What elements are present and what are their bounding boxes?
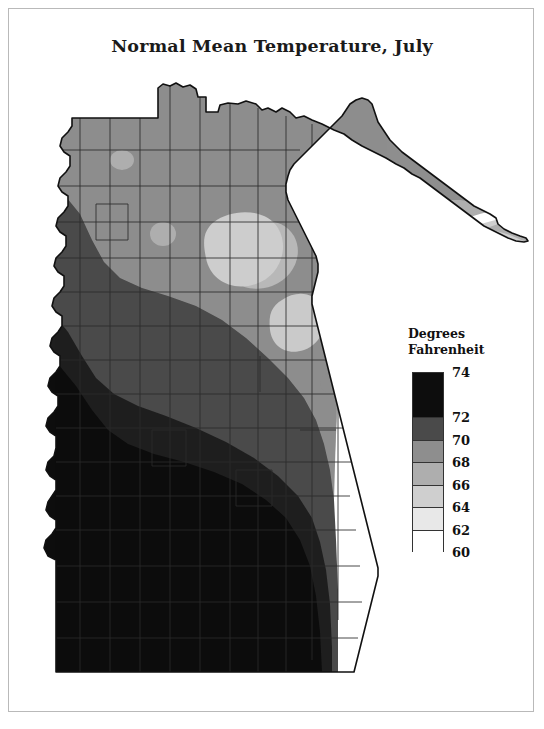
legend-swatch-62-64 xyxy=(413,508,443,531)
legend-title-line-1: Degrees xyxy=(408,326,528,342)
lake-superior-cool-strip xyxy=(340,207,536,336)
legend-label-66: 66 xyxy=(452,477,470,492)
cool-pocket-northwest xyxy=(110,150,134,170)
legend-tick-labels: 7472706866646260 xyxy=(452,372,512,552)
legend-label-62: 62 xyxy=(452,522,470,537)
legend-swatch-72-74 xyxy=(413,373,443,418)
legend-label-72: 72 xyxy=(452,410,470,425)
legend-swatch-70-72 xyxy=(413,418,443,441)
legend-body: 7472706866646260 xyxy=(412,372,528,558)
legend-label-70: 70 xyxy=(452,432,470,447)
legend-label-68: 68 xyxy=(452,455,470,470)
legend-title: Degrees Fahrenheit xyxy=(408,326,528,358)
north-shore-cool-pocket xyxy=(352,226,436,322)
legend-swatch-60-62 xyxy=(413,531,443,554)
arrowhead-coolest-strip xyxy=(386,206,536,280)
legend-label-74: 74 xyxy=(452,365,470,380)
legend-color-bar xyxy=(412,372,444,552)
cool-pocket-west-central xyxy=(150,222,176,246)
legend-swatch-64-66 xyxy=(413,486,443,509)
legend-title-line-2: Fahrenheit xyxy=(408,342,528,358)
legend-swatch-68-70 xyxy=(413,441,443,464)
legend-label-64: 64 xyxy=(452,500,470,515)
legend-swatch-66-68 xyxy=(413,463,443,486)
map-legend: Degrees Fahrenheit 7472706866646260 xyxy=(408,326,528,358)
figure-root: Normal Mean Temperature, July xyxy=(0,0,544,729)
legend-label-60: 60 xyxy=(452,545,470,560)
